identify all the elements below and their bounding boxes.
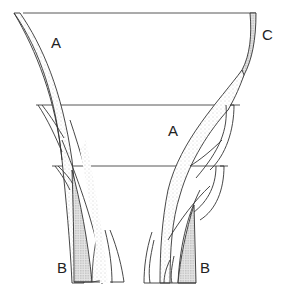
label-b-right: B [200,259,210,276]
diagram-canvas: A A B B C [0,0,286,296]
right-leaf-b [178,205,196,283]
label-a-right: A [168,122,178,139]
label-a-left: A [51,34,61,51]
right-leaf-a [160,70,244,283]
label-b-left: B [57,259,67,276]
label-c: C [262,26,273,43]
